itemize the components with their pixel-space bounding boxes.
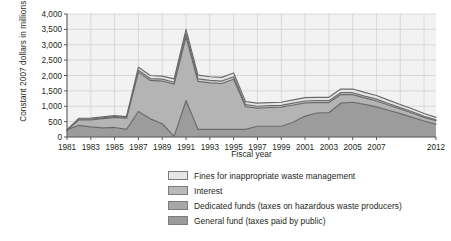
- svg-text:3,500: 3,500: [42, 25, 63, 34]
- svg-text:1,500: 1,500: [42, 87, 63, 96]
- legend-label-dedicated-funds: Dedicated funds (taxes on hazardous wast…: [194, 201, 402, 211]
- legend-item: Interest: [168, 183, 451, 198]
- legend-swatch-fines: [168, 171, 188, 180]
- legend-item: Dedicated funds (taxes on hazardous wast…: [168, 198, 451, 213]
- svg-text:0: 0: [57, 133, 62, 142]
- chart-legend: Fines for inappropriate waste management…: [168, 168, 451, 228]
- svg-text:2,500: 2,500: [42, 56, 63, 65]
- svg-text:3,000: 3,000: [42, 41, 63, 50]
- svg-text:4,000: 4,000: [42, 10, 63, 19]
- legend-item: Fines for inappropriate waste management: [168, 168, 451, 183]
- legend-swatch-dedicated-funds: [168, 201, 188, 210]
- legend-label-interest: Interest: [194, 186, 222, 196]
- legend-item: General fund (taxes paid by public): [168, 213, 451, 228]
- legend-swatch-general-fund: [168, 216, 188, 225]
- legend-label-fines: Fines for inappropriate waste management: [194, 171, 355, 181]
- chart-figure: Constant 2007 dollars in millions 05001,…: [0, 0, 451, 241]
- legend-label-general-fund: General fund (taxes paid by public): [194, 216, 326, 226]
- svg-text:1,000: 1,000: [42, 102, 63, 111]
- legend-swatch-interest: [168, 186, 188, 195]
- svg-text:2,000: 2,000: [42, 72, 63, 81]
- x-axis-title: Fiscal year: [67, 149, 436, 159]
- svg-text:500: 500: [48, 118, 62, 127]
- area-chart-svg: 05001,0001,5002,0002,5003,0003,5004,0001…: [0, 0, 451, 160]
- plot-area: 05001,0001,5002,0002,5003,0003,5004,0001…: [0, 0, 451, 160]
